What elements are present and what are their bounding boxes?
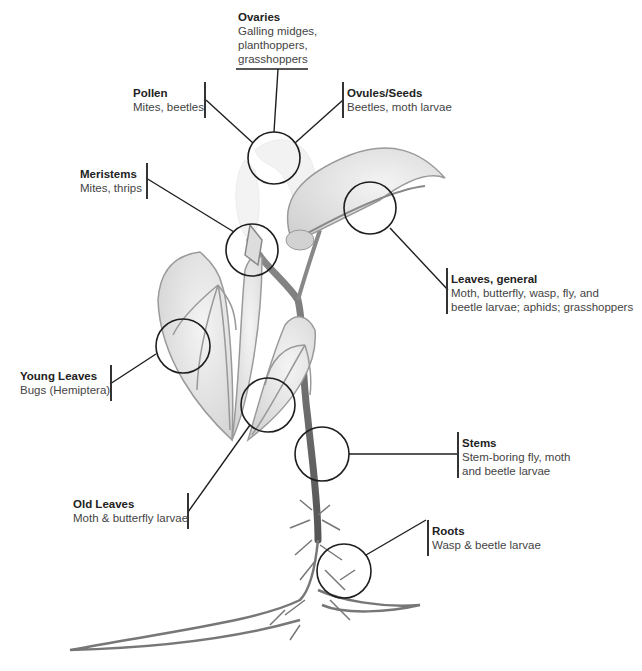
label-ovaries-title: Ovaries <box>238 10 317 24</box>
label-ovules: Ovules/Seeds Beetles, moth larvae <box>347 86 452 114</box>
label-ovules-line-1: Beetles, moth larvae <box>347 100 452 114</box>
label-young-leaves: Young Leaves Bugs (Hemiptera) <box>20 369 110 397</box>
label-ovules-title: Ovules/Seeds <box>347 86 452 100</box>
label-old-leaves-line-1: Moth & butterfly larvae <box>73 511 188 525</box>
label-young-leaves-line-1: Bugs (Hemiptera) <box>20 383 110 397</box>
label-meristems-line-1: Mites, thrips <box>80 181 142 195</box>
label-pollen-title: Pollen <box>133 86 204 100</box>
label-pollen-line-1: Mites, beetles <box>133 100 204 114</box>
label-roots: Roots Wasp & beetle larvae <box>432 524 541 552</box>
label-stems: Stems Stem-boring fly, moth and beetle l… <box>462 436 570 478</box>
ovules-bracket <box>342 82 344 118</box>
plant-illustration <box>0 0 642 671</box>
leaves-general-bracket <box>446 268 448 314</box>
label-pollen: Pollen Mites, beetles <box>133 86 204 114</box>
label-ovaries-line-3: grasshoppers <box>238 52 317 66</box>
label-old-leaves: Old Leaves Moth & butterfly larvae <box>73 497 188 525</box>
meristems-bracket <box>146 163 148 199</box>
label-leaves-general-line-1: Moth, butterfly, wasp, fly, and <box>451 286 633 300</box>
roots-bracket <box>427 520 429 556</box>
label-roots-line-1: Wasp & beetle larvae <box>432 538 541 552</box>
label-old-leaves-title: Old Leaves <box>73 497 188 511</box>
label-roots-title: Roots <box>432 524 541 538</box>
label-ovaries-line-1: Galling midges, <box>238 24 317 38</box>
label-stems-line-1: Stem-boring fly, moth <box>462 450 570 464</box>
label-ovaries: Ovaries Galling midges, planthoppers, gr… <box>238 10 317 66</box>
label-ovaries-line-2: planthoppers, <box>238 38 317 52</box>
label-young-leaves-title: Young Leaves <box>20 369 110 383</box>
pollen-bracket <box>204 82 206 118</box>
young-leaves-bracket <box>110 365 112 401</box>
label-leaves-general-title: Leaves, general <box>451 272 633 286</box>
label-leaves-general: Leaves, general Moth, butterfly, wasp, f… <box>451 272 633 314</box>
stems-circle <box>295 427 349 481</box>
label-stems-line-2: and beetle larvae <box>462 464 570 478</box>
label-leaves-general-line-2: beetle larvae; aphids; grasshoppers <box>451 300 633 314</box>
label-meristems-title: Meristems <box>80 167 142 181</box>
label-meristems: Meristems Mites, thrips <box>80 167 142 195</box>
stems-bracket <box>457 432 459 478</box>
young-leaf <box>158 252 233 440</box>
label-stems-title: Stems <box>462 436 570 450</box>
